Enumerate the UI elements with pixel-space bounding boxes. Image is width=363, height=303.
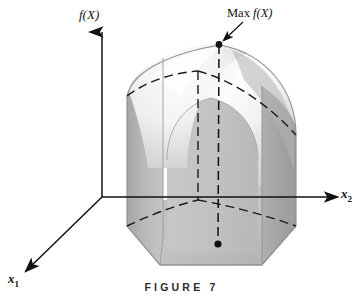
axis-label-x2-subscript: 2 (348, 194, 353, 204)
max-point-marker (216, 41, 223, 48)
axis-label-x2: x2 (341, 187, 352, 204)
axis-x1-diagonal (26, 197, 102, 271)
max-annotation-leader (224, 22, 244, 41)
figure-caption: FIGURE 7 (0, 281, 363, 293)
figure-container: f(X) x2 x1 Max f(X) FIGURE 7 (0, 0, 363, 303)
projection-point-marker (214, 240, 221, 247)
max-drop-line (218, 45, 219, 244)
figure-drawing (0, 0, 363, 303)
max-annotation-roman: Max (227, 6, 253, 20)
solid-surface (127, 45, 296, 265)
max-annotation-label: Max f(X) (227, 7, 272, 20)
axis-label-f-of-x: f(X) (79, 8, 99, 21)
max-annotation-italic: f(X) (253, 6, 272, 20)
